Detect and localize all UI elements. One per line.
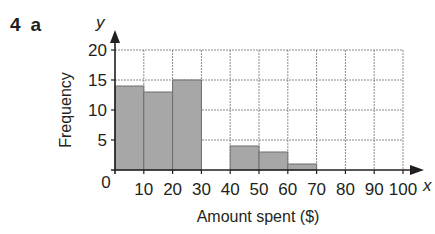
x-tick-label: 100 bbox=[389, 180, 417, 199]
x-tick-label: 20 bbox=[163, 180, 182, 199]
histogram-bar bbox=[230, 146, 259, 170]
y-axis-arrow-icon bbox=[110, 30, 120, 43]
y-tick-label: 20 bbox=[88, 41, 107, 60]
x-variable-label: x bbox=[422, 176, 432, 195]
histogram-bar bbox=[259, 152, 288, 170]
y-tick-label: 15 bbox=[88, 71, 107, 90]
histogram-bar bbox=[115, 86, 144, 170]
x-tick-label: 40 bbox=[221, 180, 240, 199]
histogram-bar bbox=[144, 92, 173, 170]
x-tick-label: 0 bbox=[101, 173, 110, 192]
x-tick-label: 50 bbox=[250, 180, 269, 199]
x-tick-label: 30 bbox=[192, 180, 211, 199]
histogram-bar bbox=[173, 80, 202, 170]
x-tick-label: 80 bbox=[336, 180, 355, 199]
x-axis-arrow-icon bbox=[410, 165, 424, 175]
x-tick-label: 60 bbox=[278, 180, 297, 199]
y-variable-label: y bbox=[95, 13, 106, 32]
x-axis-label: Amount spent ($) bbox=[197, 208, 320, 225]
histogram-chart: 01020304050607080901005101520 Amount spe… bbox=[0, 0, 435, 234]
y-tick-label: 5 bbox=[98, 131, 107, 150]
x-tick-label: 90 bbox=[365, 180, 384, 199]
y-tick-label: 10 bbox=[88, 101, 107, 120]
chart-bars bbox=[115, 80, 317, 170]
x-tick-label: 70 bbox=[307, 180, 326, 199]
y-axis-label: Frequency bbox=[57, 72, 74, 148]
x-tick-label: 10 bbox=[134, 180, 153, 199]
histogram-bar bbox=[288, 164, 317, 170]
